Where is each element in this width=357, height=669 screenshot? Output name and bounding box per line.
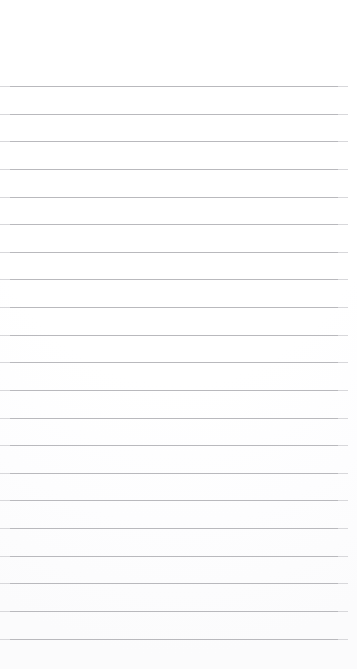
rule-line (0, 639, 348, 640)
rule-line (0, 252, 348, 253)
rule-line (0, 362, 348, 363)
rule-line (0, 335, 348, 336)
rule-line (0, 279, 348, 280)
rule-line (0, 307, 348, 308)
rule-line (0, 390, 348, 391)
rule-line (0, 445, 348, 446)
rule-line (0, 114, 348, 115)
rule-line (0, 141, 348, 142)
rule-line (0, 556, 348, 557)
rule-line (0, 418, 348, 419)
lined-paper-page (0, 0, 357, 669)
rule-line (0, 611, 348, 612)
rule-line (0, 86, 348, 87)
rule-line (0, 224, 348, 225)
rule-line (0, 528, 348, 529)
rule-line (0, 583, 348, 584)
rule-line (0, 500, 348, 501)
rule-line (0, 169, 348, 170)
rule-lines-layer (0, 0, 357, 669)
rule-line (0, 473, 348, 474)
rule-line (0, 197, 348, 198)
